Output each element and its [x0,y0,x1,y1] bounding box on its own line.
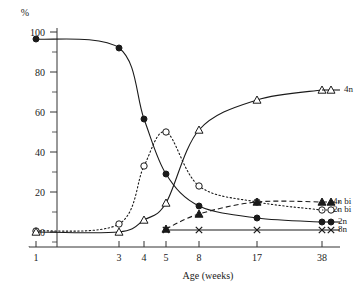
data-point-2n [196,203,202,209]
x-tick-label: 38 [317,252,327,263]
data-point-2n-bi [116,221,122,227]
filled-circle-icon [163,171,169,177]
y-tick-label: 80 [35,67,45,78]
series-line [36,90,322,233]
series-8n [163,227,325,233]
legend: 4n4n bi2n bi2n8n [322,84,354,234]
open-triangle-icon [162,199,170,206]
x-tick-label: 3 [117,252,122,263]
x-axis-title: Age (weeks) [183,270,234,282]
open-circle-icon [141,163,147,169]
data-point-2n [33,36,39,42]
filled-circle-icon [116,45,122,51]
data-point-4n-bi [162,225,170,232]
series-line [36,39,322,222]
filled-circle-icon [33,36,39,42]
series-group [32,36,326,235]
filled-circle-icon [328,219,334,225]
legend-label: 2n bi [333,204,352,214]
y-tick-label: 20 [35,187,45,198]
x-tick-label: 1 [34,252,39,263]
chart-figure: 020406080100%134581738Age (weeks)4n4n bi… [0,0,362,295]
filled-circle-icon [196,203,202,209]
y-tick-label: 40 [35,147,45,158]
series-2n [33,36,325,225]
series-line [166,201,322,229]
data-point-2n [163,171,169,177]
x-tick-label: 8 [197,252,202,263]
filled-circle-icon [254,215,260,221]
y-axis-title: % [21,7,29,18]
x-tick-label: 4 [142,252,147,263]
x-tick-label: 5 [164,252,169,263]
data-point-2n-bi [196,183,202,189]
data-point-2n [141,116,147,122]
series-4n [32,86,326,235]
data-point-2n [116,45,122,51]
series-4n-bi [162,198,326,232]
data-point-4n [140,216,148,223]
legend-label: 8n [338,224,348,234]
open-circle-icon [116,221,122,227]
data-point-4n [162,199,170,206]
chart-canvas: 020406080100%134581738Age (weeks)4n4n bi… [0,0,362,295]
data-point-4n-bi [195,210,203,217]
filled-triangle-icon [162,225,170,232]
data-point-2n [254,215,260,221]
legend-marker-filled-circle [328,219,334,225]
open-circle-icon [163,129,169,135]
series-2n-bi [33,129,325,234]
filled-triangle-icon [195,210,203,217]
legend-entry-8n: 8n [322,224,348,234]
open-triangle-icon [140,216,148,223]
y-tick-label: 60 [35,107,45,118]
data-point-2n-bi [141,163,147,169]
open-circle-icon [196,183,202,189]
legend-label: 4n [344,84,354,94]
axes: 020406080100%134581738Age (weeks) [21,7,340,282]
x-tick-label: 17 [252,252,262,263]
series-line [36,132,322,232]
legend-entry-4n: 4n [322,84,354,94]
filled-circle-icon [141,116,147,122]
data-point-2n-bi [163,129,169,135]
